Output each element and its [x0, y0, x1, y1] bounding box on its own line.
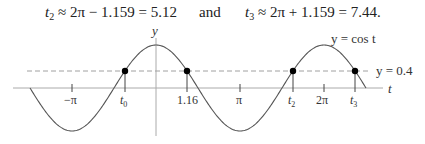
tick-label-neg-pi: −π: [64, 93, 77, 107]
cosine-plot: y t y = cos t y = 0.4 −π t0 1.16 π t2 2π…: [0, 0, 425, 144]
tick-label-2pi: 2π: [316, 93, 328, 107]
y-axis-label: y: [150, 23, 158, 38]
point-t0: [122, 68, 128, 74]
t-axis-label: t: [388, 81, 392, 96]
curve-label: y = cos t: [331, 31, 376, 46]
tick-label-pi: π: [236, 93, 242, 107]
tick-label-1.16: 1.16: [177, 93, 198, 107]
tick-label-t3: t3: [350, 93, 357, 109]
point-t3: [352, 68, 358, 74]
point-1.16: [184, 68, 190, 74]
tick-label-t2: t2: [288, 93, 295, 109]
point-t2: [290, 68, 296, 74]
tick-label-t0: t0: [120, 93, 127, 109]
hline-label: y = 0.4: [376, 63, 413, 78]
tick-marks: [72, 74, 355, 92]
